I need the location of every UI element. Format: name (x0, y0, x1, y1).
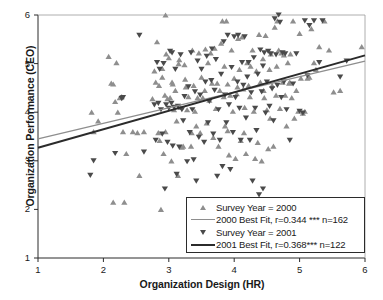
data-point (188, 144, 194, 149)
data-point (210, 131, 216, 136)
y-tick-label: 1 (16, 252, 30, 263)
data-point (232, 156, 238, 161)
data-point (191, 157, 197, 162)
data-point (202, 79, 208, 84)
data-point (247, 138, 253, 143)
data-point (272, 25, 278, 30)
data-point (172, 88, 178, 93)
line-black-icon (190, 239, 216, 251)
data-point (191, 83, 197, 88)
data-point (182, 77, 188, 82)
data-point (227, 167, 233, 172)
data-point (123, 151, 129, 156)
data-point (163, 51, 169, 56)
data-point (87, 173, 93, 178)
data-point (240, 83, 246, 88)
data-point (208, 78, 214, 83)
data-point (285, 60, 291, 65)
data-point (196, 135, 202, 140)
data-point (136, 173, 142, 178)
data-point (260, 56, 266, 61)
data-point (265, 146, 271, 151)
data-point (283, 107, 289, 112)
data-point (115, 110, 121, 115)
data-point (180, 118, 186, 123)
line-gray-icon (190, 214, 216, 226)
data-point (202, 88, 208, 93)
data-point (316, 60, 322, 65)
data-point (287, 51, 293, 56)
data-point (219, 164, 225, 169)
data-point (248, 90, 254, 95)
data-point (236, 67, 242, 72)
data-point (249, 47, 255, 52)
scatter-plot-figure: Organization Performance (CEO) Organizat… (0, 0, 383, 300)
data-point (255, 140, 261, 145)
data-point (293, 88, 299, 93)
data-point (141, 129, 147, 134)
data-point (192, 89, 198, 94)
data-point (159, 75, 165, 80)
data-point (274, 63, 280, 68)
data-point (249, 179, 255, 184)
legend-label: Survey Year = 2000 (216, 202, 297, 213)
data-point (337, 88, 343, 93)
data-point (260, 186, 266, 191)
data-point (153, 79, 159, 84)
best-fit-line (38, 61, 365, 139)
data-point (291, 115, 297, 120)
data-point (297, 31, 303, 36)
data-point (221, 63, 227, 68)
data-point (225, 33, 231, 38)
data-point (188, 50, 194, 55)
data-point (253, 128, 259, 133)
data-point (113, 60, 119, 65)
triangle-up-icon (190, 201, 216, 213)
x-tick-label: 2 (96, 264, 110, 275)
data-point (283, 123, 289, 128)
y-tick-label: 2 (16, 203, 30, 214)
data-point (242, 105, 248, 110)
data-point (198, 67, 204, 72)
data-point (158, 207, 164, 212)
legend-label: Survey Year = 2001 (216, 227, 297, 238)
y-tick-label: 5 (16, 58, 30, 69)
data-point (273, 93, 279, 98)
data-point (130, 129, 136, 134)
data-point (274, 83, 280, 88)
legend-label: 2001 Best Fit, r=0.368*** n=122 (216, 239, 346, 250)
chart-legend: Survey Year = 2000 2000 Best Fit, r=0.34… (186, 197, 365, 253)
data-point (261, 95, 267, 100)
data-point (337, 75, 343, 80)
data-point (193, 179, 199, 184)
data-point (90, 158, 96, 163)
data-point (243, 115, 249, 120)
data-point (259, 158, 265, 163)
data-point (230, 109, 236, 114)
data-point (120, 129, 126, 134)
data-point (214, 80, 220, 85)
x-tick-label: 6 (358, 264, 372, 275)
data-point (89, 110, 95, 115)
data-point (181, 62, 187, 67)
data-point (243, 151, 249, 156)
data-point (110, 200, 116, 205)
data-point (230, 130, 236, 135)
y-tick-label: 6 (16, 9, 30, 20)
data-point (326, 47, 332, 52)
data-point (136, 33, 142, 38)
data-point (213, 57, 219, 62)
data-point (211, 88, 217, 93)
data-point (193, 123, 199, 128)
data-point (160, 151, 166, 156)
data-point (204, 54, 210, 59)
data-point (311, 60, 317, 65)
data-point (316, 44, 322, 49)
data-point (168, 158, 174, 163)
data-point (236, 106, 242, 111)
data-point (302, 18, 308, 23)
data-point (201, 140, 207, 145)
data-point (202, 46, 208, 51)
data-point (262, 111, 268, 116)
data-point (106, 54, 112, 59)
